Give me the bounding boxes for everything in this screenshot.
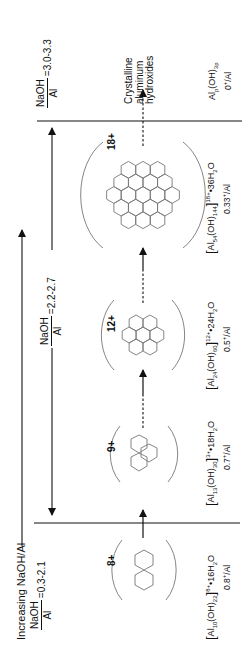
charge-per-al-18: 0.33+/Al <box>221 184 231 214</box>
ratio-low: NaOH Al =0.3-2.1 <box>30 561 53 630</box>
ratio-high-fraction: NaOH Al <box>36 78 59 108</box>
formula-al54: [Al54(OH)144]18+•36H2O <box>204 162 218 254</box>
charge-9: 9+ <box>107 441 117 452</box>
ratio-high: NaOH Al =3.0-3.3 <box>36 39 59 108</box>
ratio-mid: NaOH Al =2.2-2.7 <box>40 277 63 346</box>
formula-al24: [Al24(OH)60]12+•24H2O <box>204 302 218 390</box>
ratio-low-value: =0.3-2.1 <box>37 561 47 598</box>
cluster-8-icon <box>112 540 176 600</box>
formula-al13: [Al13(OH)30]3+•18H2O <box>204 421 218 506</box>
ratio-mid-fraction: NaOH Al <box>40 316 63 346</box>
charge-per-al-product: 0+/Al <box>222 72 232 90</box>
cluster-12-icon <box>101 300 184 370</box>
charge-per-al-12: 0.5+/Al <box>221 327 231 352</box>
formula-alp: Alp(OH)3p <box>208 62 219 100</box>
formula-al10: [Al10(OH)22]8+•16H2O <box>204 555 218 640</box>
charge-per-al-8: 0.8+/Al <box>221 565 231 590</box>
increasing-naoh-al-label: Increasing NaOH/Al <box>16 543 27 640</box>
cluster-18-icon <box>81 142 206 248</box>
charge-18: 18+ <box>107 133 117 150</box>
ratio-mid-value: =2.2-2.7 <box>47 277 57 314</box>
charge-8: 8+ <box>107 555 117 566</box>
aluminum-polycation-diagram: Increasing NaOH/Al NaOH Al =0.3-2.1 NaOH… <box>0 0 250 666</box>
charge-per-al-9: 0.7+/Al <box>221 445 231 470</box>
ratio-high-value: =3.0-3.3 <box>43 39 53 76</box>
charge-12: 12+ <box>107 315 117 332</box>
ratio-low-fraction: NaOH Al <box>30 600 53 630</box>
crystalline-product-label: Crystalline aluminum hydroxides <box>124 56 156 104</box>
cluster-9-icon <box>110 426 177 482</box>
